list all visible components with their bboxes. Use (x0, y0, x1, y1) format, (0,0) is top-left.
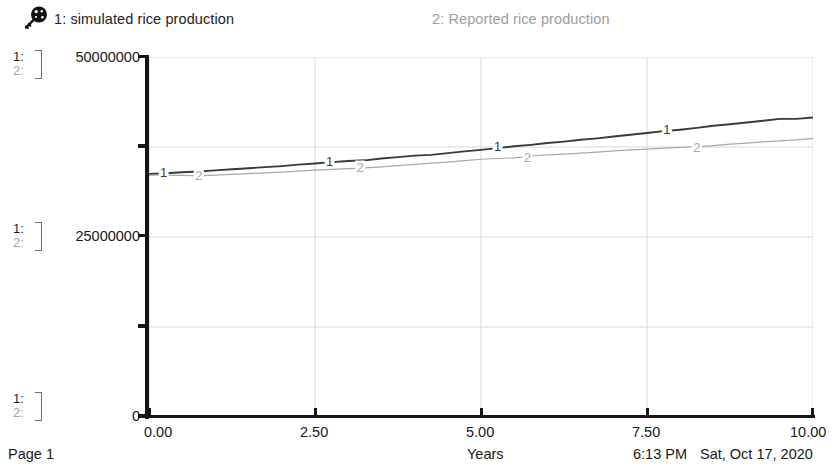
svg-text:2: 2 (357, 160, 364, 175)
y-axis-line (145, 55, 149, 419)
x-axis-tick-5 (480, 408, 483, 418)
x-axis-title: Years (467, 446, 504, 462)
x-axis-tick-2-5 (314, 408, 317, 418)
x-axis-tick-label-7-5: 7.50 (632, 424, 660, 440)
legend-item-series-2[interactable]: 2: Reported rice production (432, 11, 610, 27)
svg-text:1: 1 (160, 165, 167, 180)
bracket-glyph (35, 50, 42, 79)
y-axis-tick-label-mid: 25000000 (50, 228, 140, 244)
svg-text:2: 2 (195, 168, 202, 183)
footer-time: 6:13 PM (633, 446, 687, 462)
svg-text:1: 1 (494, 139, 501, 154)
x-axis-tick-label-0: 0.00 (144, 424, 172, 440)
x-axis-tick-10 (811, 408, 814, 418)
y-axis-tick-12-5m (138, 324, 149, 328)
page-indicator: Page 1 (8, 446, 54, 462)
axis-index-bottom: 1: 2: (13, 392, 41, 419)
x-axis-tick-label-2-5: 2.50 (300, 424, 328, 440)
y-axis-tick-50m (138, 55, 149, 58)
svg-text:2: 2 (524, 150, 531, 165)
svg-text:2: 2 (693, 140, 700, 155)
x-axis-tick-7-5 (646, 408, 649, 418)
axis-index-mid: 1: 2: (13, 222, 41, 249)
x-axis-tick-label-10: 10.00 (790, 424, 826, 440)
legend-bar: 1: simulated rice production 2: Reported… (0, 0, 835, 38)
y-axis-tick-label-top: 50000000 (50, 49, 140, 65)
line-chart: 12121212 (149, 57, 813, 417)
y-axis-tick-25m (138, 234, 149, 237)
legend-item-series-1[interactable]: 1: simulated rice production (54, 11, 234, 27)
bracket-glyph (35, 392, 42, 421)
y-axis-tick-label-bottom: 0 (50, 408, 140, 424)
bracket-glyph (35, 222, 42, 251)
x-axis-tick-label-5: 5.00 (466, 424, 494, 440)
x-axis-tick-0 (148, 408, 151, 418)
svg-text:1: 1 (326, 154, 333, 169)
svg-text:1: 1 (663, 122, 670, 137)
grid-lines (149, 57, 813, 417)
axis-index-top: 1: 2: (13, 50, 41, 77)
key-icon (20, 5, 50, 33)
y-axis-tick-37-5m (138, 144, 149, 148)
chart-plot-area: 12121212 (149, 57, 813, 417)
footer-date: Sat, Oct 17, 2020 (700, 446, 813, 462)
